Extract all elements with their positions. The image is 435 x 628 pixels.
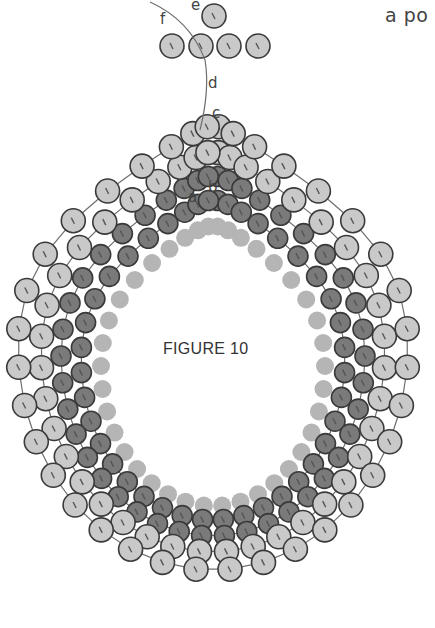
bead-inner-core	[316, 357, 334, 375]
bead-inner-core	[92, 357, 110, 375]
bead-inner-core	[111, 290, 129, 308]
bead-inner-core	[297, 290, 315, 308]
bead-inner-core	[143, 254, 161, 272]
bead-inner-core	[100, 312, 118, 330]
bead-inner-core	[94, 334, 112, 352]
bead-inner-core	[94, 380, 112, 398]
bead-inner-core	[161, 240, 179, 258]
bead-inner-core	[308, 312, 326, 330]
bead-inner-core	[248, 240, 266, 258]
bead-inner-core	[199, 218, 217, 236]
bead-inner-core	[315, 380, 333, 398]
thread-tail-f	[150, 2, 207, 130]
label-b: b	[208, 178, 218, 196]
beadwork-diagram	[0, 0, 435, 628]
label-c: c	[212, 104, 220, 122]
bead-inner-core	[314, 334, 332, 352]
label-f: f	[160, 10, 165, 28]
bead-inner-core	[265, 254, 283, 272]
bead-inner-core	[232, 229, 250, 247]
top-beads	[160, 4, 270, 58]
figure-title: FIGURE 10	[163, 340, 248, 358]
label-a: a	[188, 188, 197, 206]
bead-inner-core	[126, 271, 144, 289]
corner-caption: a po	[385, 4, 428, 26]
label-e: e	[191, 0, 200, 14]
bead-inner-core	[282, 271, 300, 289]
label-d: d	[208, 74, 218, 92]
